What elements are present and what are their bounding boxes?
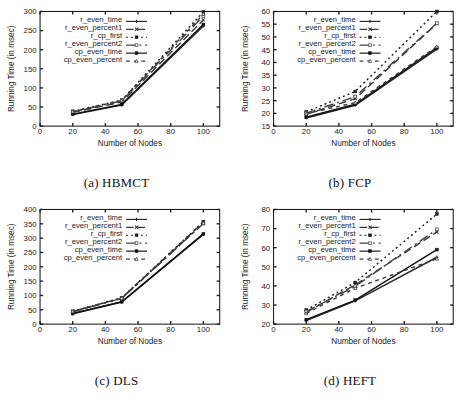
x-tick-label: 0 (271, 325, 276, 334)
legend-label-cp_even_percent: cp_even_percent (64, 253, 123, 262)
x-tick-label: 80 (166, 325, 175, 334)
chart-panel-dls: 020406080100050100150200250300350400Numb… (0, 198, 233, 404)
x-tick-label: 60 (134, 325, 143, 334)
legend-marker-cp_even_time (135, 250, 138, 253)
x-tick-label: 20 (302, 325, 311, 334)
plot-area-hbmct: 020406080100050100150200250300Number of … (0, 0, 233, 172)
x-tick-label: 60 (367, 127, 376, 136)
y-tick-label: 40 (261, 58, 270, 67)
x-tick-label: 60 (367, 325, 376, 334)
x-tick-label: 0 (271, 127, 276, 136)
plot-area-heft: 02040608010020304050607080Number of Node… (233, 198, 467, 370)
legend-marker-r_cp_first (135, 234, 138, 237)
y-tick-label: 60 (261, 7, 270, 16)
data-point-r_even_percent2 (435, 228, 438, 231)
data-point-r_even_percent2 (435, 22, 438, 25)
data-point-r_cp_first (435, 10, 438, 13)
legend-marker-r_even_time (135, 218, 138, 221)
x-tick-label: 40 (101, 127, 110, 136)
y-tick-label: 50 (261, 33, 270, 42)
plot-area-fcp: 02040608010015202530354045505560Number o… (233, 0, 467, 172)
y-tick-label: 100 (24, 291, 38, 300)
data-point-cp_even_time (202, 232, 205, 235)
chart-svg-heft: 02040608010020304050607080Number of Node… (233, 198, 467, 370)
x-tick-label: 20 (68, 325, 77, 334)
x-tick-label: 100 (430, 127, 444, 136)
chart-svg-hbmct: 020406080100050100150200250300Number of … (0, 0, 233, 172)
panel-caption-hbmct: (a) HBMCT (84, 175, 150, 191)
y-tick-label: 80 (261, 205, 270, 214)
x-tick-label: 40 (335, 325, 344, 334)
y-axis-title: Running Time (in msec) (241, 223, 250, 310)
x-tick-label: 40 (101, 325, 110, 334)
y-tick-label: 150 (24, 65, 38, 74)
legend-marker-r_even_time (368, 218, 371, 221)
legend-marker-r_cp_first (369, 234, 372, 237)
y-tick-label: 50 (261, 263, 270, 272)
chart-panel-fcp: 02040608010015202530354045505560Number o… (233, 0, 467, 198)
y-tick-label: 25 (261, 97, 270, 106)
legend-marker-cp_even_percent (135, 59, 138, 62)
y-tick-label: 30 (261, 84, 270, 93)
y-tick-label: 55 (261, 20, 270, 29)
x-tick-label: 80 (400, 127, 409, 136)
x-tick-label: 60 (134, 127, 143, 136)
panel-caption-fcp: (b) FCP (329, 175, 372, 191)
data-point-cp_even_time (305, 318, 308, 321)
data-point-r_even_percent2 (354, 95, 357, 98)
chart-svg-dls: 020406080100050100150200250300350400Numb… (0, 198, 233, 370)
chart-svg-fcp: 02040608010015202530354045505560Number o… (233, 0, 467, 172)
legend-label-cp_even_percent: cp_even_percent (297, 253, 356, 262)
y-tick-label: 50 (28, 306, 37, 315)
legend-label-cp_even_percent: cp_even_percent (64, 55, 123, 64)
x-tick-label: 20 (68, 127, 77, 136)
y-tick-label: 45 (261, 46, 270, 55)
x-tick-label: 0 (38, 127, 43, 136)
y-tick-label: 0 (32, 320, 37, 329)
y-tick-label: 250 (24, 26, 38, 35)
y-tick-label: 20 (261, 109, 270, 118)
legend-marker-cp_even_percent (135, 257, 138, 260)
legend-marker-r_even_percent2 (369, 242, 372, 245)
legend-label-cp_even_percent: cp_even_percent (297, 55, 356, 64)
x-tick-label: 40 (335, 127, 344, 136)
y-tick-label: 300 (24, 7, 38, 16)
y-tick-label: 20 (261, 320, 270, 329)
y-tick-label: 0 (32, 122, 37, 131)
legend-marker-cp_even_time (369, 52, 372, 55)
data-point-r_cp_first (354, 90, 357, 93)
x-tick-label: 100 (197, 127, 211, 136)
legend-marker-cp_even_time (369, 250, 372, 253)
legend-marker-r_cp_first (135, 36, 138, 39)
legend-marker-cp_even_percent (368, 59, 371, 62)
x-tick-label: 20 (302, 127, 311, 136)
x-axis-title: Number of Nodes (331, 139, 395, 148)
y-tick-label: 30 (261, 301, 270, 310)
plot-area-dls: 020406080100050100150200250300350400Numb… (0, 198, 233, 370)
y-tick-label: 350 (24, 220, 38, 229)
legend-marker-r_even_percent2 (369, 44, 372, 47)
y-axis-title: Running Time (in msec) (7, 25, 16, 112)
y-tick-label: 70 (261, 224, 270, 233)
data-point-cp_even_time (435, 248, 438, 251)
x-tick-label: 100 (197, 325, 211, 334)
legend-marker-r_cp_first (369, 36, 372, 39)
y-tick-label: 300 (24, 234, 38, 243)
x-tick-label: 0 (38, 325, 43, 334)
x-axis-title: Number of Nodes (331, 337, 395, 346)
y-tick-label: 200 (24, 263, 38, 272)
data-point-cp_even_time (202, 23, 205, 26)
legend-marker-cp_even_percent (368, 257, 371, 260)
y-tick-label: 15 (261, 122, 270, 131)
y-tick-label: 40 (261, 282, 270, 291)
y-tick-label: 60 (261, 244, 270, 253)
legend-marker-r_even_time (368, 20, 371, 23)
x-axis-title: Number of Nodes (98, 337, 162, 346)
y-tick-label: 250 (24, 248, 38, 257)
panel-caption-dls: (c) DLS (95, 373, 139, 389)
legend-marker-r_even_time (135, 20, 138, 23)
x-axis-title: Number of Nodes (98, 139, 162, 148)
legend-marker-r_even_percent2 (135, 44, 138, 47)
data-point-cp_even_time (120, 103, 123, 106)
legend-marker-r_even_percent2 (135, 242, 138, 245)
